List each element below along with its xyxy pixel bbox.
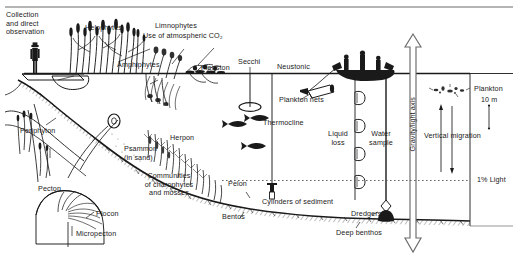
fish-icon (222, 114, 269, 150)
label-gravity-light-axis: Gravity/light axis (409, 97, 418, 152)
label-amphiphytes: Amphiphytes (117, 61, 160, 70)
label-plankton: Plankton (474, 85, 503, 94)
label-cylinders: Cylinders of sediment (262, 198, 333, 207)
label-pecton: Pecton (38, 185, 61, 194)
label-liquid-loss: Liquid loss (322, 130, 354, 147)
label-neustonic: Neustonic (277, 63, 310, 72)
plankton-net-icon (300, 68, 336, 98)
label-water-sample: Water sample (364, 130, 398, 147)
label-vertical-migration: Vertical migration (424, 132, 481, 141)
label-thermocline: Thermocline (263, 119, 304, 128)
submerged-macrophytes-icon (145, 47, 182, 110)
label-bentos: Bentos (222, 213, 245, 222)
label-1-percent-light: 1% Light (477, 176, 506, 185)
label-micropecton: Micropecton (76, 230, 116, 239)
label-charophytes: Communities of charophytes and mosses (133, 172, 205, 198)
right-surface-extension (421, 74, 513, 227)
boat-with-researchers-icon (332, 50, 395, 81)
label-plocon: Plocon (96, 210, 119, 219)
left-bank-cutaway (5, 82, 118, 247)
scale-bar-10m (488, 104, 490, 129)
label-collection: Collection and direct observation (6, 11, 66, 37)
label-10m: 10 m (481, 96, 497, 105)
label-deep-benthos: Deep benthos (336, 229, 382, 238)
label-psammon: Psammon (in sand) (124, 145, 174, 162)
label-helophytes: Helophytes (85, 24, 122, 33)
limnology-diagram: Collection and direct observation Heloph… (0, 0, 518, 265)
plankton-organisms-icon (429, 84, 470, 97)
label-secchi: Secchi (238, 58, 260, 67)
label-limnophytes-sub: Use of atmospheric CO₂ (143, 32, 223, 41)
label-pleuston: Pleuston (201, 64, 230, 73)
label-herpon: Herpon (170, 134, 194, 143)
periphyton-stem-icon (108, 114, 120, 128)
label-pelon: Pelon (228, 180, 247, 189)
label-dredgers: Dredgers (351, 210, 381, 219)
dredger-icon (378, 74, 395, 222)
label-plankton-nets: Plankton nets (279, 96, 324, 105)
secchi-disk-icon (239, 74, 261, 111)
label-limnophytes: Limnophytes (155, 22, 197, 31)
label-periphyton: Periphyton (20, 127, 55, 136)
